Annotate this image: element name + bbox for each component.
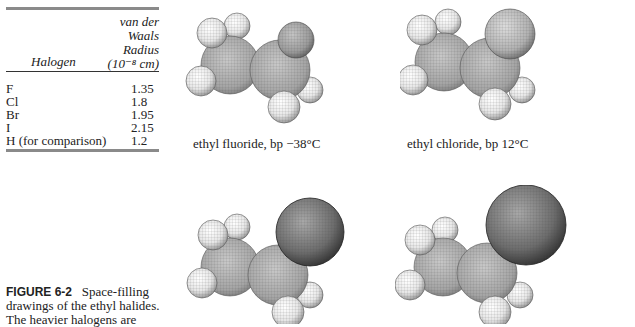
figure-caption-line: FIGURE 6-2 Space-filling	[6, 285, 149, 299]
figure-caption-line: The heavier halogens are	[6, 313, 136, 327]
table-top-rule	[6, 7, 159, 10]
ethyl-fluoride-caption: ethyl fluoride, bp −38°C	[193, 136, 320, 152]
ethyl-chloride-model	[400, 0, 560, 130]
ethyl-iodide-model	[395, 185, 595, 324]
cell-halogen: H (for comparison)	[6, 134, 106, 147]
ethyl-bromide-model	[175, 195, 375, 324]
ethyl-fluoride-model	[180, 0, 340, 130]
figure-label: FIGURE 6-2	[6, 285, 72, 299]
header-radius-line: (10⁻⁸ cm)	[108, 57, 159, 71]
header-radius-line: Waals	[108, 29, 159, 43]
figure-caption-line: drawings of the ethyl halides.	[6, 299, 159, 313]
table-header-rule	[6, 71, 159, 72]
header-radius-line: van der	[108, 15, 159, 29]
header-radius-line: Radius	[108, 43, 159, 57]
ethyl-chloride-caption: ethyl chloride, bp 12°C	[407, 136, 528, 152]
table-bottom-rule	[6, 149, 159, 152]
header-radius: van der Waals Radius (10⁻⁸ cm)	[108, 15, 159, 71]
header-halogen: Halogen	[31, 55, 76, 69]
figure-caption-text: Space-filling	[82, 284, 149, 299]
cell-radius: 1.2	[131, 134, 147, 147]
